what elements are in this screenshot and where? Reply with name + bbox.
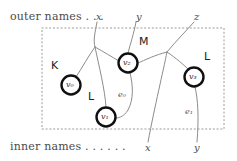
bigraph-canvas [0, 0, 237, 161]
outer-name-y: y [136, 12, 142, 22]
link-x-to-v1 [95, 47, 106, 107]
edge-label-e0: e₀ [118, 91, 126, 99]
edge-label-e1: e₁ [185, 108, 193, 116]
outer-name-z: z [194, 12, 199, 22]
node-label-v0: v₀ [66, 81, 74, 89]
link-outer-y [128, 22, 136, 53]
inner-name-x: x [145, 143, 151, 153]
link-edges [76, 22, 198, 142]
link-z-to-v3 [167, 52, 189, 70]
link-x-to-v2 [95, 47, 119, 61]
bigraph-figure: outer names . . . inner names . . . . . … [0, 0, 237, 161]
link-outer-z [167, 22, 194, 52]
node-label-v2: v₂ [123, 59, 131, 67]
control-label-L-v3: L [204, 51, 210, 62]
inner-name-y: y [194, 143, 200, 153]
outer-name-x: x [96, 12, 102, 22]
link-edge-e1 [195, 87, 198, 142]
link-x-to-v0 [76, 47, 95, 77]
node-label-v3: v₃ [189, 73, 197, 81]
node-label-v1: v₁ [101, 113, 109, 121]
inner-names-caption: inner names . . . . . . [10, 141, 126, 152]
control-label-M: M [139, 36, 149, 47]
outer-names-caption: outer names . . . [10, 11, 104, 22]
control-label-L-v1: L [88, 91, 94, 102]
control-label-K: K [51, 60, 58, 71]
link-z-to-v2 [138, 52, 167, 63]
link-outer-x [94, 22, 97, 47]
